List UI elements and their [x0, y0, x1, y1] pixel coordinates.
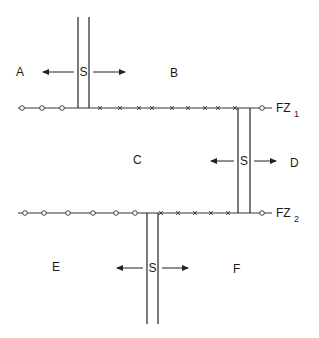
- circle-marker-icon: [20, 106, 25, 111]
- circle-marker-icon: [91, 211, 96, 216]
- spreading-label: S: [240, 154, 248, 168]
- circle-marker-icon: [114, 211, 119, 216]
- fault-zone-label: FZ: [276, 101, 291, 115]
- fault-zone-subscript: 1: [294, 109, 299, 119]
- circle-marker-icon: [60, 106, 65, 111]
- region-label-b: B: [170, 66, 178, 80]
- fault-zones: FZ1FZ2: [18, 101, 299, 224]
- fault-zone-label: FZ: [276, 206, 291, 220]
- circle-marker-icon: [133, 211, 138, 216]
- region-label-c: C: [133, 153, 142, 167]
- circle-marker-icon: [23, 211, 28, 216]
- spreading-center-1: S: [43, 17, 125, 108]
- fault-zone-1: FZ1: [18, 101, 299, 119]
- spreading-label: S: [148, 261, 156, 275]
- region-label-f: F: [233, 262, 240, 276]
- fault-zone-diagram: FZ1FZ2 SSS ABCDEF: [0, 0, 319, 338]
- spreading-center-2: S: [211, 108, 276, 213]
- region-label-e: E: [52, 260, 60, 274]
- fault-zone-subscript: 2: [294, 214, 299, 224]
- spreading-centers: SSS: [43, 17, 276, 324]
- circle-marker-icon: [260, 106, 265, 111]
- circle-marker-icon: [42, 211, 47, 216]
- circle-marker-icon: [66, 211, 71, 216]
- region-label-a: A: [16, 65, 24, 79]
- circle-marker-icon: [260, 211, 265, 216]
- spreading-center-3: S: [117, 213, 188, 324]
- circle-marker-icon: [40, 106, 45, 111]
- region-label-d: D: [290, 156, 299, 170]
- spreading-label: S: [79, 65, 87, 79]
